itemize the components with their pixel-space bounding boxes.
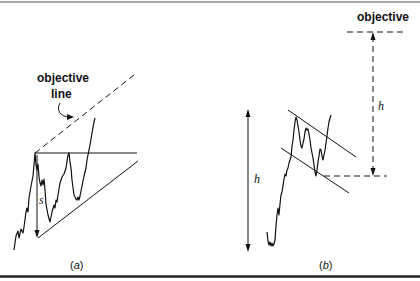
support-line xyxy=(38,161,138,238)
panel-a: s objective line (a) xyxy=(14,71,138,271)
arrow-head-right-icon xyxy=(67,114,74,120)
objective-line-dashed xyxy=(35,75,134,153)
svg-text:(b): (b) xyxy=(319,259,332,271)
chart-patterns-figure: s objective line (a) h h objective xyxy=(0,0,420,281)
arrow-head-down-icon xyxy=(371,168,376,176)
label-h-left: h xyxy=(254,172,260,186)
price-path-b xyxy=(267,115,331,246)
arrow-head-up-icon xyxy=(246,109,251,117)
arrow-head-down-icon xyxy=(246,244,251,252)
label-s: s xyxy=(39,193,44,207)
panel-b: h h objective (b) xyxy=(246,10,410,271)
label-objective-b: objective xyxy=(357,10,409,24)
arrow-head-up-icon xyxy=(371,32,376,40)
flag-upper-line xyxy=(288,110,356,157)
label-h-right: h xyxy=(378,99,384,113)
svg-text:(a): (a) xyxy=(70,259,83,271)
label-line-a: line xyxy=(51,87,72,101)
label-objective-a: objective xyxy=(37,71,89,85)
